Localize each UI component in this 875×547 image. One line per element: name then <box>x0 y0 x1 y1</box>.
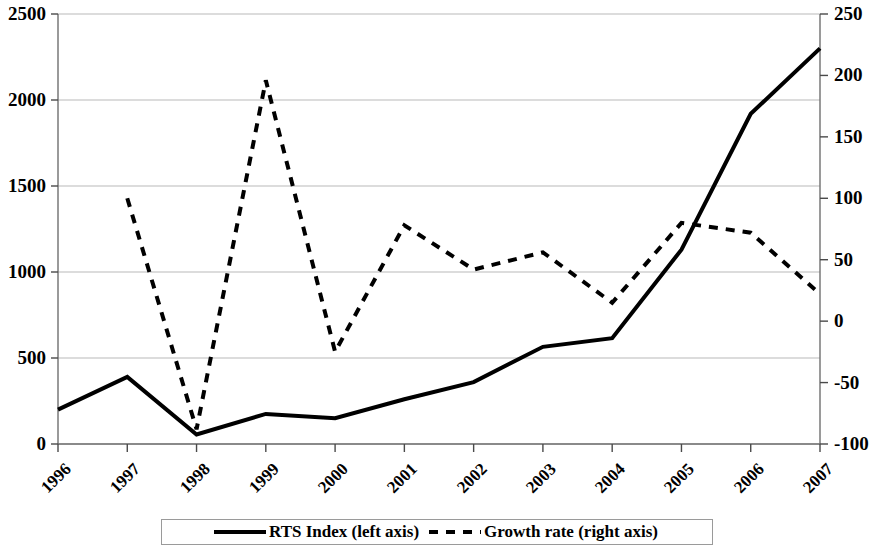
left-axis-tick-label: 1500 <box>8 176 46 195</box>
right-axis-tick-label: 0 <box>834 311 844 330</box>
legend-label-rts-index: RTS Index (left axis) <box>266 522 429 542</box>
legend-entry-growth-rate: Growth rate (right axis) <box>429 522 668 542</box>
left-axis-tick-label: 1000 <box>8 262 46 281</box>
left-axis-tick-label: 2500 <box>8 4 46 23</box>
right-axis-tick-label: 250 <box>834 4 863 23</box>
legend-dashed-line-icon <box>429 530 481 534</box>
series-line-rts-index <box>58 48 820 434</box>
chart-container: 05001000150020002500-100-500501001502002… <box>0 0 875 547</box>
legend-entry-rts-index: RTS Index (left axis) <box>206 522 429 542</box>
right-axis-tick-label: 200 <box>834 65 863 84</box>
right-axis-tick-label: 50 <box>834 250 853 269</box>
chart-legend: RTS Index (left axis) Growth rate (right… <box>161 519 713 545</box>
series-line-growth-rate <box>127 80 820 429</box>
right-axis-tick-label: -100 <box>834 434 869 453</box>
legend-solid-line-icon <box>214 530 266 534</box>
left-axis-tick-label: 2000 <box>8 90 46 109</box>
right-axis-tick-label: -50 <box>834 373 859 392</box>
right-axis-tick-label: 150 <box>834 127 863 146</box>
right-axis-tick-label: 100 <box>834 188 863 207</box>
left-axis-tick-label: 500 <box>18 348 47 367</box>
left-axis-tick-label: 0 <box>37 434 47 453</box>
legend-label-growth-rate: Growth rate (right axis) <box>481 522 668 542</box>
